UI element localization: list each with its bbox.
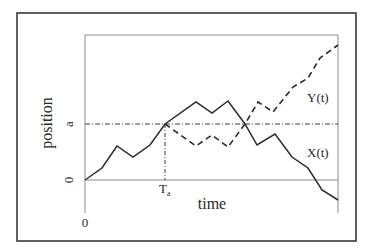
reflection-principle-diagram: position a 0 0 Ta time Y(t) X(t) (0, 0, 370, 252)
x-axis-label: time (198, 195, 226, 212)
figure: position a 0 0 Ta time Y(t) X(t) (0, 0, 370, 252)
y-tick-a: a (61, 121, 76, 127)
y-axis-label: position (38, 97, 56, 149)
x-tick-ta: Ta (159, 181, 171, 198)
y-tick-0: 0 (61, 177, 76, 184)
x-tick-ta-subscript: a (167, 189, 171, 198)
series-x-path (85, 101, 338, 200)
x-tick-ta-main: T (159, 181, 167, 196)
series-x-label: X(t) (307, 145, 329, 160)
x-tick-0: 0 (82, 215, 89, 230)
series-y-label: Y(t) (307, 90, 329, 105)
